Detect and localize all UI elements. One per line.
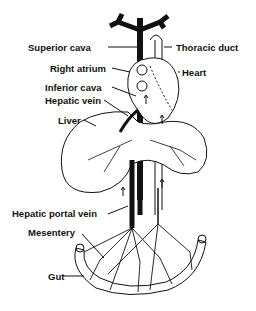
- label-gut: Gut: [48, 272, 64, 282]
- label-inferior-cava: Inferior cava: [45, 83, 102, 93]
- label-liver: Liver: [58, 116, 81, 126]
- label-hepatic-vein: Hepatic vein: [45, 96, 101, 106]
- label-thoracic-duct: Thoracic duct: [176, 43, 238, 53]
- label-right-atrium: Right atrium: [50, 64, 106, 74]
- label-superior-cava: Superior cava: [28, 43, 91, 53]
- label-heart: Heart: [182, 68, 206, 78]
- label-hepatic-portal-vein: Hepatic portal vein: [12, 209, 97, 219]
- label-mesentery: Mesentery: [28, 228, 75, 238]
